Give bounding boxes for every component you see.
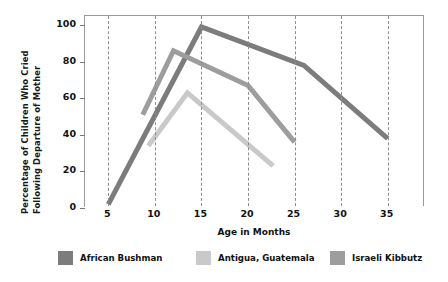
y-tick-label: 60 bbox=[44, 92, 76, 102]
chart-legend: African BushmanAntigua, GuatemalaIsraeli… bbox=[58, 251, 438, 271]
legend-label: Israeli Kibbutz bbox=[352, 254, 422, 263]
legend-color-swatch bbox=[58, 251, 73, 265]
y-tick-label: 20 bbox=[44, 165, 76, 175]
y-tick-label: 40 bbox=[44, 129, 76, 139]
legend-label: African Bushman bbox=[80, 254, 162, 263]
x-axis-tick-labels: 5101520253035 bbox=[84, 209, 424, 225]
gridline-vertical bbox=[248, 16, 249, 206]
y-tick-label: 80 bbox=[44, 56, 76, 66]
y-tick-label: 100 bbox=[44, 19, 76, 29]
y-axis-title-line-2: Following Departure of Mother bbox=[32, 66, 42, 214]
gridline-vertical bbox=[108, 16, 109, 206]
gridline-vertical bbox=[295, 16, 296, 206]
x-tick-label: 35 bbox=[380, 209, 393, 219]
x-tick-label: 5 bbox=[104, 209, 111, 219]
y-tick-label: 0 bbox=[44, 202, 76, 212]
legend-item[interactable]: Israeli Kibbutz bbox=[330, 251, 422, 265]
legend-color-swatch bbox=[330, 251, 345, 265]
y-tick-mark bbox=[80, 25, 85, 26]
legend-color-swatch bbox=[196, 251, 211, 265]
x-tick-label: 15 bbox=[194, 209, 207, 219]
y-tick-mark bbox=[80, 62, 85, 63]
x-tick-label: 30 bbox=[334, 209, 347, 219]
y-axis-tick-labels: 020406080100 bbox=[44, 0, 76, 222]
x-tick-label: 20 bbox=[240, 209, 253, 219]
data-lines bbox=[85, 16, 425, 208]
gridline-vertical bbox=[388, 16, 389, 206]
y-tick-mark bbox=[80, 98, 85, 99]
gridline-vertical bbox=[201, 16, 202, 206]
y-tick-mark bbox=[80, 171, 85, 172]
y-axis-title: Percentage of Children Who Cried Followi… bbox=[0, 0, 46, 222]
y-tick-mark bbox=[80, 135, 85, 136]
gridline-vertical bbox=[341, 16, 342, 206]
plot-area bbox=[84, 15, 424, 207]
series-line bbox=[148, 93, 273, 166]
y-axis-title-line-1: Percentage of Children Who Cried bbox=[20, 50, 30, 214]
legend-item[interactable]: African Bushman bbox=[58, 251, 162, 265]
x-tick-label: 10 bbox=[147, 209, 160, 219]
legend-label: Antigua, Guatemala bbox=[218, 254, 315, 263]
x-axis-title: Age in Months bbox=[84, 227, 424, 237]
legend-item[interactable]: Antigua, Guatemala bbox=[196, 251, 315, 265]
gridline-vertical bbox=[155, 16, 156, 206]
chart-figure: Percentage of Children Who Cried Followi… bbox=[0, 0, 448, 282]
x-tick-label: 25 bbox=[287, 209, 300, 219]
